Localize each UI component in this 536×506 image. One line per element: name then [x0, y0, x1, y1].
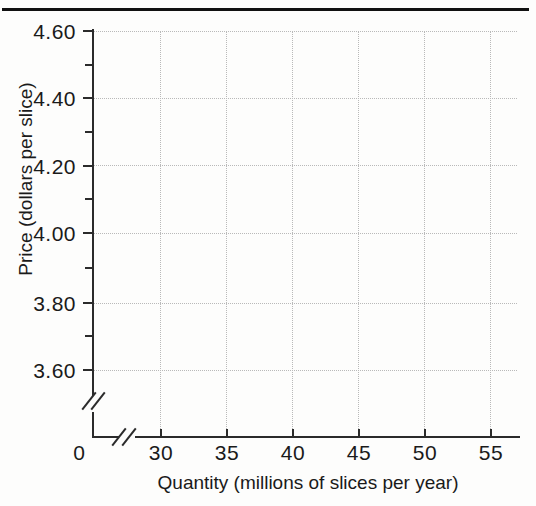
- x-axis-line: [92, 436, 520, 438]
- x-tick-45: [358, 429, 360, 438]
- y-tick-460: [83, 30, 93, 32]
- gridline-vertical-30: [160, 31, 161, 437]
- gridline-horizontal-360: [93, 370, 517, 371]
- y-tick-400: [83, 232, 93, 234]
- y-tick-minor-390: [85, 267, 93, 269]
- gridline-vertical-40: [292, 31, 293, 437]
- gridline-vertical-55: [490, 31, 491, 437]
- gridline-vertical-45: [358, 31, 359, 437]
- gridline-vertical-35: [226, 31, 227, 437]
- gridline-horizontal-400: [93, 233, 517, 234]
- x-tick-50: [424, 429, 426, 438]
- y-tick-label-360: 3.60: [6, 359, 76, 383]
- gridline-horizontal-420: [93, 165, 517, 166]
- x-axis-title: Quantity (millions of slices per year): [93, 472, 523, 494]
- x-tick-label-45: 45: [329, 441, 389, 465]
- y-tick-440: [83, 97, 93, 99]
- x-tick-40: [292, 429, 294, 438]
- x-tick-30: [160, 429, 162, 438]
- y-tick-minor-410: [85, 198, 93, 200]
- x-tick-label-40: 40: [263, 441, 323, 465]
- y-tick-360: [83, 369, 93, 371]
- gridline-vertical-50: [424, 31, 425, 437]
- gridline-horizontal-440: [93, 98, 517, 99]
- x-tick-label-30: 30: [131, 441, 191, 465]
- top-rule-divider: [2, 8, 529, 11]
- y-axis-title: Price (dollars per slice): [15, 49, 37, 309]
- y-tick-minor-450: [85, 64, 93, 66]
- y-tick-420: [83, 165, 93, 167]
- gridline-horizontal-380: [93, 303, 517, 304]
- chart-figure: 4.60 4.40 4.20 4.00 3.80 3.60 30 35 40 4…: [0, 0, 536, 506]
- origin-label-zero: 0: [66, 441, 92, 465]
- x-tick-label-55: 55: [461, 441, 521, 465]
- x-tick-label-35: 35: [197, 441, 257, 465]
- y-tick-minor-430: [85, 131, 93, 133]
- y-tick-380: [83, 302, 93, 304]
- y-tick-label-460: 4.60: [6, 20, 76, 44]
- plot-area: [93, 31, 517, 437]
- x-tick-label-50: 50: [395, 441, 455, 465]
- gridline-horizontal-460: [93, 31, 517, 32]
- x-tick-55: [490, 429, 492, 438]
- x-tick-35: [226, 429, 228, 438]
- y-tick-minor-370: [85, 335, 93, 337]
